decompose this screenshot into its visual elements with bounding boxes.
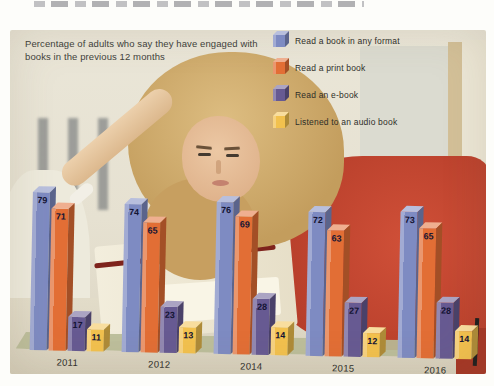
bar-value-label: 73	[400, 215, 417, 225]
chart-photo: 7971171174652313766928147263271273652814…	[10, 30, 486, 374]
bar-face-side	[471, 325, 478, 359]
bar-value-label: 12	[363, 336, 380, 346]
bar-value-label: 13	[179, 330, 196, 340]
chart-tilt: 7971171174652313766928147263271273652814…	[10, 30, 486, 374]
bar-face-side	[285, 112, 289, 128]
bar-group-2012: 74652313	[122, 180, 208, 354]
bar-value-label: 14	[455, 334, 472, 344]
bar-value-label: 72	[308, 215, 325, 225]
bar-value-label: 69	[235, 219, 252, 229]
bar: 27	[344, 303, 362, 357]
bar-value-label: 17	[68, 320, 85, 330]
bar: 63	[325, 230, 345, 356]
bar-value-label: 63	[327, 233, 344, 243]
bar-face-side	[104, 324, 111, 352]
bar-value-label: 27	[344, 306, 361, 316]
bar-group-2015: 72632712	[306, 184, 392, 358]
legend-cube-icon	[273, 89, 285, 101]
legend-label: Read a print book	[295, 63, 366, 73]
bar: 17	[68, 317, 86, 351]
legend-label: Listened to an audio book	[295, 117, 397, 127]
bar-face-front	[273, 89, 285, 101]
bar-face-side	[285, 58, 289, 74]
bar-face-side	[380, 327, 387, 357]
bar-value-label: 11	[87, 332, 104, 342]
x-axis-label: 2015	[301, 362, 385, 374]
bar-group-2016: 73652814	[398, 186, 484, 360]
bar-face-side	[285, 31, 289, 47]
legend-item: Read an e-book	[273, 87, 400, 103]
bar-value-label: 71	[51, 211, 68, 221]
bar-value-label: 74	[124, 207, 141, 217]
bar-face-front	[273, 62, 285, 74]
bar: 14	[271, 327, 289, 355]
bar: 14	[454, 331, 472, 359]
bar: 65	[141, 222, 161, 352]
bar-value-label: 65	[419, 231, 436, 241]
bar-face-side	[288, 322, 295, 356]
legend-item: Read a book in any format	[273, 33, 400, 49]
bar-value-label: 76	[216, 205, 233, 215]
bar-value-label: 28	[252, 302, 269, 312]
magazine-page: 7971171174652313766928147263271273652814…	[0, 0, 494, 386]
bar: 73	[398, 212, 418, 358]
legend-item: Listened to an audio book	[273, 114, 400, 130]
bar: 23	[160, 307, 178, 353]
bar-group-2014: 76692814	[214, 182, 300, 356]
x-axis-label: 2012	[117, 358, 201, 371]
legend: Read a book in any formatRead a print bo…	[273, 33, 400, 141]
bar-face-side	[285, 85, 289, 101]
bar-value-label: 14	[271, 330, 288, 340]
chart-title: Percentage of adults who say they have e…	[25, 37, 273, 64]
x-axis-label: 2016	[393, 364, 477, 374]
legend-cube-icon	[273, 35, 285, 47]
bar: 76	[214, 202, 234, 354]
legend-item: Read a print book	[273, 60, 400, 76]
bar-group-2011: 79711711	[30, 178, 116, 352]
x-axis-label: 2014	[209, 360, 293, 373]
bar-value-label: 79	[33, 195, 50, 205]
bar-face-side	[196, 322, 203, 354]
bar-face-front	[273, 116, 285, 128]
bar: 11	[87, 329, 104, 351]
bar: 28	[252, 299, 270, 355]
bar-value-label: 23	[160, 310, 177, 320]
bar: 12	[363, 333, 380, 357]
cropped-print-text-line	[34, 1, 364, 7]
bar: 72	[306, 212, 326, 356]
bar: 74	[122, 204, 142, 352]
bar: 71	[49, 208, 69, 350]
bar-value-label: 28	[436, 306, 453, 316]
x-axis-label: 2011	[25, 356, 109, 369]
bar: 69	[233, 216, 253, 354]
bar: 13	[179, 327, 197, 353]
legend-label: Read a book in any format	[295, 36, 400, 46]
bar-groups: 7971171174652313766928147263271273652814	[10, 30, 486, 374]
legend-cube-icon	[273, 62, 285, 74]
legend-cube-icon	[273, 116, 285, 128]
legend-label: Read an e-book	[295, 90, 358, 100]
bar: 79	[30, 192, 50, 350]
bar: 65	[416, 228, 436, 358]
bar-value-label: 65	[143, 225, 160, 235]
bar-face-front	[273, 35, 285, 47]
bar: 28	[435, 303, 453, 359]
